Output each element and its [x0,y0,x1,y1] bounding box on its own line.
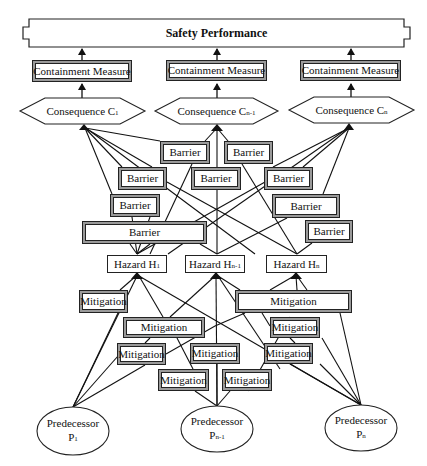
barrier: Barrier [82,221,207,244]
hazard-label: Hazard H [274,259,316,270]
mitigation: Mitigation [117,343,166,365]
hazard-hn: Hazard Hn [266,255,327,273]
consequence-label: Consequence C [46,106,115,117]
predecessor-pn-1: Predecessor Pn-1 [181,406,253,452]
predecessor-label: Predecessor [335,414,388,428]
containment-measure-3: Containment Measure [300,60,401,81]
mitigation: Mitigation [158,369,209,391]
predecessor-label: Predecessor [191,415,244,429]
consequence-cn-1: Consequence Cn-1 [155,98,278,124]
predecessor-pn: Predecessor Pn [325,405,397,451]
mitigation: Mitigation [222,369,272,391]
consequence-cn: Consequence Cn [289,97,414,123]
hazard-label: Hazard H [114,259,156,270]
consequence-c1: Consequence C1 [20,98,145,124]
hazard-hn-1: Hazard Hn-1 [185,255,245,273]
containment-measure-2: Containment Measure [166,60,267,81]
barrier: Barrier [224,141,273,164]
mitigation: Mitigation [270,317,320,338]
mitigation: Mitigation [264,343,313,364]
barrier: Barrier [305,220,353,243]
barrier: Barrier [191,167,241,190]
hazard-label: Hazard H [189,259,231,270]
consequence-label: Consequence C [315,105,384,116]
predecessor-label: Predecessor [47,417,100,431]
barrier: Barrier [160,141,210,164]
consequence-label: Consequence C [177,106,246,117]
hazard-h1: Hazard H1 [107,255,167,273]
barrier: Barrier [264,167,313,190]
predecessor-p1: Predecessor P1 [37,408,109,454]
mitigation: Mitigation [190,343,240,364]
mitigation: Mitigation [235,290,352,313]
containment-measure-1: Containment Measure [32,60,132,82]
mitigation: Mitigation [123,317,205,338]
bowtie-safety-diagram: Safety Performance Containment Measure C… [0,0,427,466]
barrier: Barrier [110,194,160,217]
mitigation: Mitigation [79,290,128,313]
safety-performance-label: Safety Performance [29,19,404,47]
barrier: Barrier [118,167,167,190]
barrier: Barrier [272,194,340,218]
